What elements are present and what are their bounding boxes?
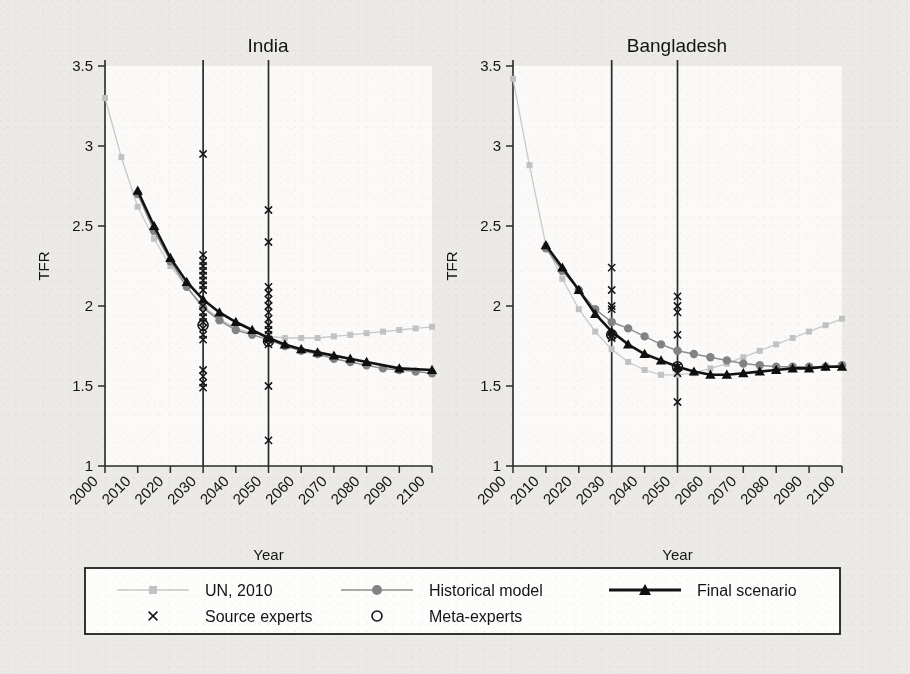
y-tick-label: 3.5 xyxy=(72,57,93,74)
figure-canvas: India3.532.521.51TFR20002010202020302040… xyxy=(0,0,910,674)
x-tick-label: 2000 xyxy=(474,472,510,508)
x-tick-label: 2050 xyxy=(638,472,674,508)
marker-hist-circle xyxy=(199,303,207,311)
legend-label-meta-experts: Meta-experts xyxy=(429,608,522,625)
marker-un-square xyxy=(576,306,582,312)
y-tick-label: 2.5 xyxy=(72,217,93,234)
y-tick-label: 2.5 xyxy=(480,217,501,234)
marker-un-square xyxy=(364,330,370,336)
marker-un-square xyxy=(118,154,124,160)
marker-hist-circle xyxy=(723,356,731,364)
x-tick-label: 2040 xyxy=(605,472,641,508)
y-tick-label: 2 xyxy=(493,297,501,314)
x-tick-label: 2100 xyxy=(393,472,429,508)
y-tick-label: 1 xyxy=(85,457,93,474)
x-tick-label: 2100 xyxy=(803,472,839,508)
marker-un-square xyxy=(625,359,631,365)
marker-hist-circle xyxy=(640,332,648,340)
marker-hist-circle xyxy=(624,324,632,332)
x-tick-label: 2020 xyxy=(539,472,575,508)
marker-un-square xyxy=(510,76,516,82)
marker-un-square xyxy=(642,367,648,373)
y-tick-label: 3 xyxy=(493,137,501,154)
y-axis-title: TFR xyxy=(35,251,52,280)
x-tick-label: 2080 xyxy=(327,472,363,508)
marker-hist-circle xyxy=(232,326,240,334)
marker-un-square xyxy=(102,95,108,101)
legend-label-historical-model: Historical model xyxy=(429,582,543,599)
marker-hist-circle xyxy=(657,340,665,348)
marker-hist-circle xyxy=(673,347,681,355)
x-tick-label: 2070 xyxy=(294,472,330,508)
y-axis-title: TFR xyxy=(443,251,460,280)
legend-marker-circle xyxy=(372,585,382,595)
y-tick-label: 1.5 xyxy=(72,377,93,394)
y-tick-label: 3.5 xyxy=(480,57,501,74)
x-tick-label: 2080 xyxy=(737,472,773,508)
marker-un-square xyxy=(429,324,435,330)
marker-hist-circle xyxy=(690,350,698,358)
marker-un-square xyxy=(559,276,565,282)
marker-un-square xyxy=(298,335,304,341)
y-tick-label: 1.5 xyxy=(480,377,501,394)
legend-label-source-experts: Source experts xyxy=(205,608,313,625)
x-tick-label: 2090 xyxy=(770,472,806,508)
legend-label-final-scenario: Final scenario xyxy=(697,582,797,599)
marker-un-square xyxy=(151,236,157,242)
marker-un-square xyxy=(790,335,796,341)
y-tick-label: 1 xyxy=(493,457,501,474)
x-tick-label: 2070 xyxy=(704,472,740,508)
x-tick-label: 2050 xyxy=(229,472,265,508)
marker-hist-circle xyxy=(739,359,747,367)
panel-title-bangladesh: Bangladesh xyxy=(627,35,727,56)
panel-bangladesh: Bangladesh3.532.521.51TFR200020102020203… xyxy=(443,35,847,563)
x-tick-label: 2020 xyxy=(131,472,167,508)
marker-un-square xyxy=(331,333,337,339)
marker-un-square xyxy=(380,329,386,335)
marker-un-square xyxy=(823,322,829,328)
marker-hist-circle xyxy=(215,316,223,324)
x-tick-label: 2060 xyxy=(671,472,707,508)
x-tick-label: 2090 xyxy=(360,472,396,508)
x-tick-label: 2010 xyxy=(506,472,542,508)
x-tick-label: 2030 xyxy=(164,472,200,508)
panel-title-india: India xyxy=(247,35,289,56)
marker-hist-circle xyxy=(608,318,616,326)
x-axis-title: Year xyxy=(662,546,692,563)
marker-un-square xyxy=(413,325,419,331)
marker-un-square xyxy=(609,346,615,352)
marker-un-square xyxy=(839,316,845,322)
x-tick-label: 2030 xyxy=(572,472,608,508)
legend: UN, 2010Historical modelFinal scenarioSo… xyxy=(85,568,840,634)
marker-un-square xyxy=(740,354,746,360)
x-axis-title: Year xyxy=(253,546,283,563)
marker-un-square xyxy=(658,372,664,378)
x-tick-label: 2000 xyxy=(66,472,102,508)
x-tick-label: 2060 xyxy=(262,472,298,508)
marker-un-square xyxy=(592,329,598,335)
y-tick-label: 2 xyxy=(85,297,93,314)
marker-un-square xyxy=(396,327,402,333)
legend-label-un-2010: UN, 2010 xyxy=(205,582,273,599)
two-panel-tfr-chart: India3.532.521.51TFR20002010202020302040… xyxy=(0,0,910,674)
x-tick-label: 2040 xyxy=(196,472,232,508)
legend-marker-square xyxy=(149,586,157,594)
marker-un-square xyxy=(773,341,779,347)
marker-un-square xyxy=(315,335,321,341)
marker-hist-circle xyxy=(706,353,714,361)
y-tick-label: 3 xyxy=(85,137,93,154)
marker-un-square xyxy=(135,204,141,210)
panel-india: India3.532.521.51TFR20002010202020302040… xyxy=(35,35,437,563)
marker-un-square xyxy=(526,162,532,168)
x-tick-label: 2010 xyxy=(98,472,134,508)
marker-un-square xyxy=(347,332,353,338)
marker-un-square xyxy=(806,329,812,335)
marker-un-square xyxy=(757,348,763,354)
